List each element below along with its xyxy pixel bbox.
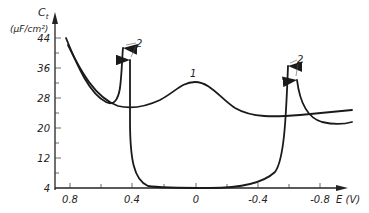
curve-label-2-right: 2	[297, 54, 303, 65]
curve-label-2-left: 2	[136, 38, 142, 49]
y-axis-label: Ct	[38, 6, 49, 21]
y-tick-4: 4	[44, 183, 50, 194]
y-tick-labels: 44 36 28 20 12 4	[37, 33, 50, 194]
y-tick-28: 28	[37, 93, 50, 104]
x-tick-0.4: 0.4	[124, 194, 140, 205]
curves	[66, 38, 352, 188]
y-ticks	[55, 38, 61, 173]
curve-label-1: 1	[190, 68, 196, 79]
x-tick-neg0.8: -0.8	[310, 194, 330, 205]
axes: 44 36 28 20 12 4 0.8 0.4 0 -0.4 -0.8 Ct …	[10, 6, 360, 205]
x-tick-neg0.4: -0.4	[248, 194, 268, 205]
x-axis-arrow-icon	[336, 185, 348, 191]
y-tick-12: 12	[37, 153, 50, 164]
curve-2-inner	[130, 60, 288, 188]
y-axis-unit: (µF/cm²)	[10, 24, 48, 34]
y-tick-20: 20	[37, 123, 50, 134]
curve-labels: 1 2 2	[126, 38, 303, 79]
curve-2-cathodic	[297, 80, 352, 124]
x-tick-0: 0	[193, 194, 199, 205]
x-tick-0.8: 0.8	[62, 194, 78, 205]
curve-1	[68, 45, 352, 116]
x-tick-labels: 0.8 0.4 0 -0.4 -0.8	[62, 194, 330, 205]
y-axis-arrow-icon	[52, 12, 58, 24]
curve-2-anodic	[66, 38, 123, 103]
y-tick-44: 44	[37, 33, 50, 44]
x-axis-label: E (V)	[336, 194, 360, 205]
capacitance-chart: 44 36 28 20 12 4 0.8 0.4 0 -0.4 -0.8 Ct …	[0, 0, 369, 213]
y-tick-36: 36	[37, 63, 50, 74]
